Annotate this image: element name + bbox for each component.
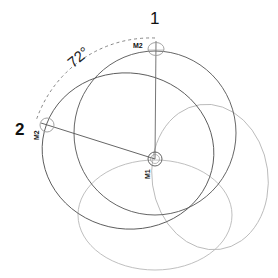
- radius-line-2: [41, 123, 155, 159]
- angle-arc-dashed: [36, 38, 155, 121]
- radius-line-1: [155, 41, 156, 159]
- position-1-label: 1: [150, 9, 159, 28]
- m2-top-label: M2: [133, 42, 143, 49]
- m1-label: M1: [144, 169, 151, 179]
- position-2-label: 2: [15, 120, 24, 139]
- diagram-canvas: 1 2 72° M2 M2 M1: [0, 0, 278, 278]
- angle-label: 72°: [64, 43, 92, 71]
- orbit-position-2: [32, 62, 224, 240]
- m2-left-label: M2: [33, 130, 40, 140]
- rotation-diagram: 1 2 72° M2 M2 M1: [0, 0, 278, 278]
